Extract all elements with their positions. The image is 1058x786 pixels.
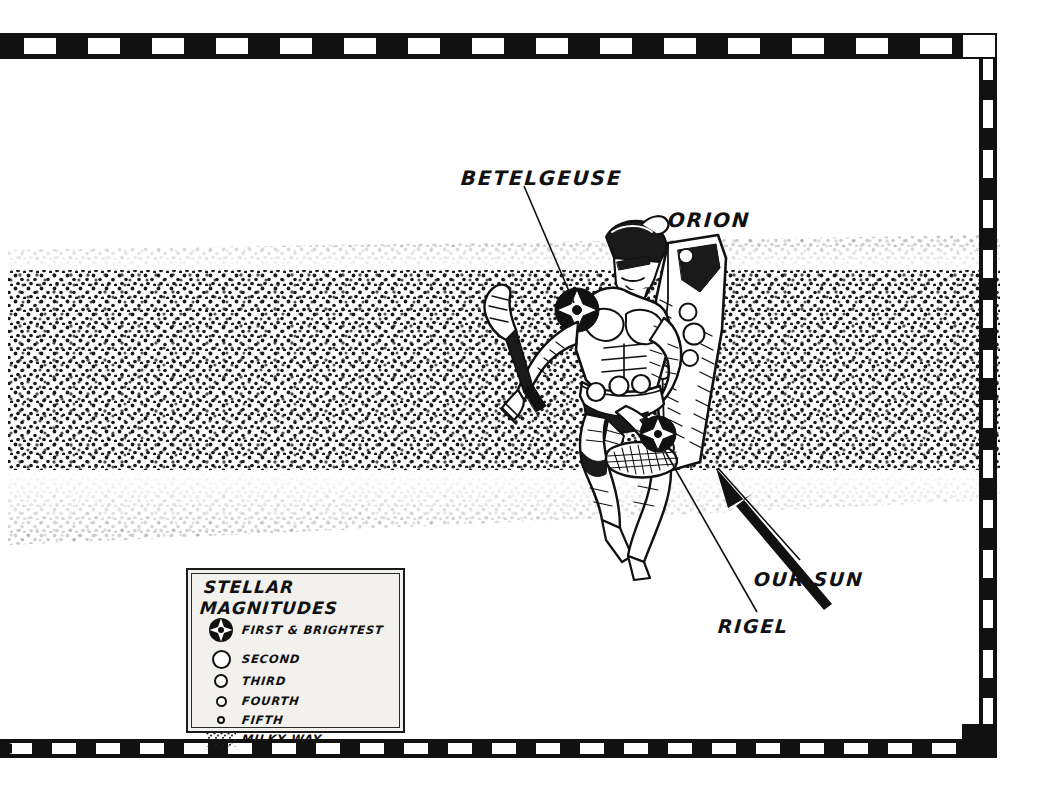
legend-label-second: SECOND (241, 652, 301, 666)
first-magnitude-star-icon (200, 617, 242, 643)
second-magnitude-circle-icon (200, 650, 242, 669)
fifth-magnitude-circle-icon (200, 716, 242, 724)
legend-label-first: FIRST & BRIGHTEST (241, 623, 384, 637)
legend-entry-fourth: FOURTH (200, 691, 396, 711)
legend-title-line-1: STELLAR (203, 577, 295, 597)
legend-title-line-2: MAGNITUDES (199, 598, 339, 618)
legend-label-fourth: FOURTH (241, 694, 300, 708)
label-rigel: RIGEL (717, 615, 789, 637)
third-magnitude-circle-icon (200, 674, 242, 688)
label-orion: ORION (667, 208, 751, 232)
milky-way-band (0, 160, 1010, 630)
milky-way-stipple-icon (200, 732, 242, 747)
label-our-sun: OUR SUN (753, 568, 864, 590)
stellar-magnitudes-legend: STELLAR MAGNITUDES FIRST & BRIGHTEST SEC… (186, 568, 405, 733)
legend-entry-milky-way: MILKY WAY (200, 729, 396, 749)
legend-entry-second: SECOND (200, 649, 396, 669)
legend-entry-third: THIRD (200, 671, 396, 691)
rigel-star (640, 416, 676, 452)
legend-label-fifth: FIFTH (241, 713, 284, 727)
legend-entry-first: FIRST & BRIGHTEST (200, 620, 396, 640)
legend-label-third: THIRD (241, 674, 287, 688)
star-chart-page: BETELGEUSE ORION OUR SUN RIGEL STELLAR M… (0, 0, 1058, 786)
legend-label-milky-way: MILKY WAY (241, 732, 322, 746)
legend-entry-fifth: FIFTH (200, 710, 396, 730)
label-betelgeuse: BETELGEUSE (460, 166, 623, 190)
orion-illustration (0, 0, 1058, 786)
fourth-magnitude-circle-icon (200, 696, 242, 707)
